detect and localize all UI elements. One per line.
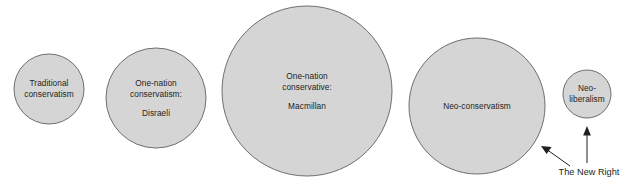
annotation-the-new-right: The New Right — [559, 167, 620, 178]
diagram-canvas: Traditional conservatism One-nation cons… — [0, 0, 631, 186]
diagram-shapes-layer — [0, 0, 631, 186]
arrow-to-neo-liberalism — [583, 126, 591, 163]
node-circle-neo-liberalism[interactable] — [563, 70, 611, 118]
node-circle-neo-conservatism[interactable] — [409, 38, 545, 174]
arrow-to-neo-conservatism — [541, 146, 570, 166]
node-circle-one-nation-conservative-macmillan[interactable] — [222, 6, 392, 176]
node-circle-traditional-conservatism[interactable] — [14, 54, 84, 124]
node-circle-one-nation-conservatism-disraeli[interactable] — [106, 48, 206, 148]
